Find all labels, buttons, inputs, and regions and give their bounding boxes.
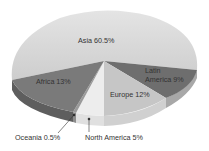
label-latin-america-line2: America 9% [145, 75, 184, 84]
label-africa: Africa 13% [36, 77, 71, 86]
label-asia: Asia 60.5% [78, 36, 115, 45]
label-north-america: North America 5% [85, 133, 144, 142]
label-oceania: Oceania 0.5% [15, 133, 61, 142]
label-europe: Europe 12% [110, 90, 150, 99]
pie-chart: Asia 60.5% Latin America 9% Europe 12% A… [0, 0, 209, 151]
label-latin-america-line1: Latin [145, 66, 161, 75]
